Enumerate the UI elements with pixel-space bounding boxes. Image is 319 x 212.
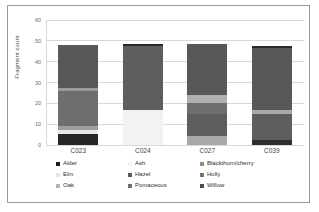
legend-label: Alder — [63, 160, 77, 167]
y-tick-label-10: 10 — [11, 121, 41, 127]
bar-segment[interactable] — [187, 44, 227, 95]
legend-item[interactable]: Alder — [56, 160, 128, 167]
legend-swatch-icon — [56, 173, 60, 177]
legend-swatch-icon — [56, 184, 60, 188]
x-axis-label-C039: C039 — [242, 147, 302, 154]
legend-item[interactable]: Oak — [56, 182, 128, 189]
bar-segment[interactable] — [187, 103, 227, 113]
bar-group[interactable] — [58, 20, 98, 145]
legend-swatch-icon — [56, 162, 60, 166]
legend-label: Hazel — [135, 171, 150, 178]
y-axis-line — [46, 20, 47, 145]
y-tick-label-50: 50 — [11, 38, 41, 44]
stacked-bar[interactable] — [123, 44, 163, 145]
bar-segment[interactable] — [58, 45, 98, 88]
legend-swatch-icon — [200, 173, 204, 177]
bar-segment[interactable] — [58, 130, 98, 133]
y-tick-label-0: 0 — [11, 142, 41, 148]
y-tick-label-40: 40 — [11, 59, 41, 65]
bar-segment[interactable] — [252, 110, 292, 114]
legend-label: Pomaceous — [135, 182, 167, 189]
x-axis-label-C023: C023 — [48, 147, 108, 154]
bar-segment[interactable] — [252, 140, 292, 145]
y-tick-label-30: 30 — [11, 80, 41, 86]
x-axis-label-C027: C027 — [177, 147, 237, 154]
legend-label: Blackthorn/cherry — [207, 160, 254, 167]
bar-group[interactable] — [252, 20, 292, 145]
legend-item[interactable]: Willow — [200, 182, 286, 189]
chart-container: Fragment count 0102030405060 C023C024C02… — [7, 5, 310, 203]
legend-item[interactable]: Holly — [200, 171, 286, 178]
bar-group[interactable] — [187, 20, 227, 145]
bar-segment[interactable] — [187, 136, 227, 145]
legend-swatch-icon — [200, 162, 204, 166]
plot-area: C023C024C027C039 — [46, 20, 304, 145]
legend-item[interactable]: Elm — [56, 171, 128, 178]
y-axis-tick-labels: 0102030405060 — [8, 20, 41, 145]
legend-label: Willow — [207, 182, 224, 189]
y-tick-label-60: 60 — [11, 17, 41, 23]
legend-item[interactable]: Ash — [128, 160, 200, 167]
stacked-bar[interactable] — [252, 46, 292, 145]
legend-item[interactable]: Pomaceous — [128, 182, 200, 189]
bar-segment[interactable] — [58, 91, 98, 126]
plot-inner — [46, 20, 304, 145]
bar-segment[interactable] — [252, 48, 292, 109]
chart-legend: AlderAshBlackthorn/cherryElmHazelHollyOa… — [56, 160, 271, 189]
bar-segment[interactable] — [58, 88, 98, 91]
bar-segment[interactable] — [187, 114, 227, 136]
bar-segment[interactable] — [123, 110, 163, 145]
legend-swatch-icon — [128, 173, 132, 177]
stacked-bar[interactable] — [58, 45, 98, 145]
stacked-bar[interactable] — [187, 44, 227, 145]
y-tick-label-20: 20 — [11, 100, 41, 106]
bar-segment[interactable] — [123, 44, 163, 46]
legend-label: Ash — [135, 160, 145, 167]
legend-label: Oak — [63, 182, 74, 189]
bar-segment[interactable] — [187, 95, 227, 103]
legend-swatch-icon — [128, 184, 132, 188]
bar-segment[interactable] — [58, 126, 98, 130]
bar-segment[interactable] — [58, 134, 98, 145]
legend-label: Holly — [207, 171, 220, 178]
legend-item[interactable]: Blackthorn/cherry — [200, 160, 286, 167]
x-axis-label-C024: C024 — [113, 147, 173, 154]
legend-swatch-icon — [200, 184, 204, 188]
bar-segment[interactable] — [252, 114, 292, 140]
bar-segment[interactable] — [123, 46, 163, 110]
legend-item[interactable]: Hazel — [128, 171, 200, 178]
bar-group[interactable] — [123, 20, 163, 145]
bar-segment[interactable] — [252, 46, 292, 48]
legend-label: Elm — [63, 171, 73, 178]
legend-swatch-icon — [128, 162, 132, 166]
